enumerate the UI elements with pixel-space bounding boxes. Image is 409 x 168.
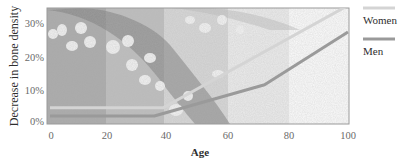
- x-tick-label: 20: [102, 130, 113, 141]
- x-tick-label: 60: [223, 130, 234, 141]
- legend-label-women: Women: [363, 14, 397, 26]
- y-tick-label: 30%: [25, 18, 45, 29]
- x-tick-label: 40: [161, 130, 172, 141]
- legend-label-men: Men: [363, 45, 384, 57]
- x-tick-label: 0: [48, 130, 53, 141]
- y-axis: 0% 10% 20% 30% Decrease in bone density: [7, 6, 44, 127]
- x-tick-label: 100: [340, 130, 356, 141]
- y-tick-label: 10%: [25, 85, 45, 96]
- x-axis: 0 20 40 60 80 100 Age: [48, 130, 356, 158]
- y-tick-label: 0%: [30, 116, 44, 127]
- x-axis-title: Age: [191, 146, 209, 158]
- legend: Women Men: [363, 8, 397, 57]
- y-tick-label: 20%: [25, 52, 45, 63]
- bone-density-chart: 0% 10% 20% 30% Decrease in bone density …: [0, 0, 409, 168]
- y-axis-title: Decrease in bone density: [7, 6, 21, 126]
- x-tick-label: 80: [284, 130, 295, 141]
